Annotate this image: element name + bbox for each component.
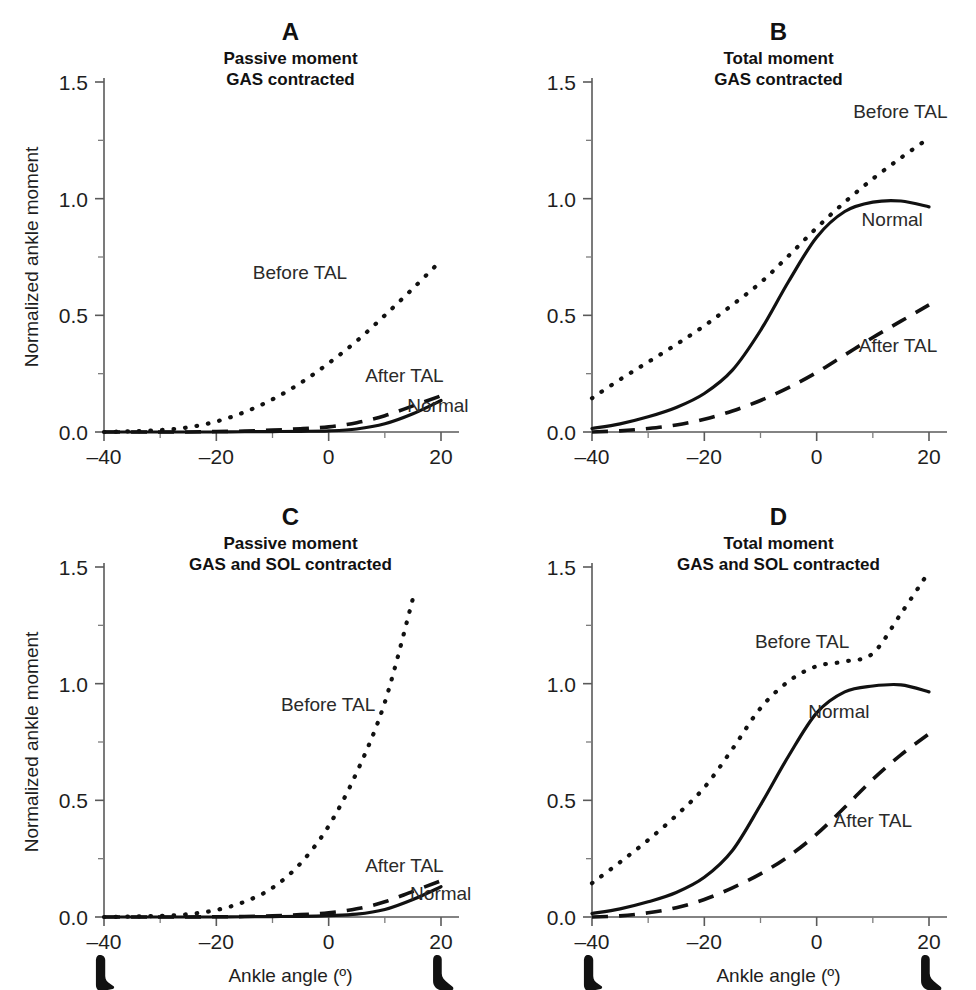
panel-letter-d: D: [770, 503, 787, 530]
panel-b-chart: BTotal momentGAS contracted0.00.51.01.5–…: [488, 0, 976, 505]
curve-label-after-tal: After TAL: [365, 365, 444, 386]
curve-label-before-tal: Before TAL: [281, 694, 375, 715]
curve-label-before-tal: Before TAL: [755, 631, 849, 652]
curve-label-before-tal: Before TAL: [853, 101, 947, 122]
x-tick-label: 20: [917, 930, 940, 953]
series-normal: [104, 887, 441, 917]
series-before-tal: [592, 138, 929, 398]
y-tick-label: 0.0: [59, 421, 88, 444]
x-axis-title: Ankle angle (º): [228, 965, 352, 986]
y-tick-label: 1.5: [59, 71, 88, 94]
series-before-tal: [592, 572, 929, 884]
panel-d-chart: DTotal momentGAS and SOL contracted0.00.…: [488, 485, 976, 990]
y-tick-label: 0.5: [547, 304, 576, 327]
panel-c-chart: CPassive momentGAS and SOL contracted0.0…: [0, 485, 488, 990]
panel-letter-b: B: [770, 18, 787, 45]
panel-letter-c: C: [282, 503, 299, 530]
y-tick-label: 1.0: [59, 673, 88, 696]
panel-title-line1: Passive moment: [223, 49, 358, 68]
panel-title-line1: Total moment: [723, 534, 834, 553]
y-tick-label: 0.5: [547, 789, 576, 812]
panel-title-line2: GAS contracted: [226, 70, 354, 89]
x-tick-label: –40: [86, 930, 121, 953]
x-tick-label: –20: [687, 445, 722, 468]
y-tick-label: 1.5: [547, 556, 576, 579]
panel-title-line1: Total moment: [723, 49, 834, 68]
panel-title-line2: GAS and SOL contracted: [677, 555, 880, 574]
x-tick-label: 20: [429, 930, 452, 953]
foot-plantarflexed-icon: [96, 955, 114, 990]
y-axis-title: Normalized ankle moment: [21, 146, 42, 367]
curve-label-normal: Normal: [808, 701, 869, 722]
panel-title-line2: GAS and SOL contracted: [189, 555, 392, 574]
series-normal: [592, 684, 929, 913]
foot-dorsiflexed-icon: [433, 955, 453, 990]
y-tick-label: 0.0: [547, 421, 576, 444]
y-tick-label: 1.5: [59, 556, 88, 579]
x-tick-label: 0: [811, 930, 823, 953]
figure-canvas: APassive momentGAS contracted0.00.51.01.…: [0, 0, 976, 990]
x-tick-label: –40: [574, 930, 609, 953]
x-tick-label: 0: [323, 445, 335, 468]
panel-b: BTotal momentGAS contracted0.00.51.01.5–…: [488, 0, 976, 495]
series-normal: [592, 201, 929, 429]
series-normal: [104, 401, 441, 433]
series-after-tal: [592, 305, 929, 432]
panel-d: DTotal momentGAS and SOL contracted0.00.…: [488, 485, 976, 980]
panel-a: APassive momentGAS contracted0.00.51.01.…: [0, 0, 488, 495]
x-tick-label: 0: [323, 930, 335, 953]
x-tick-label: –20: [199, 445, 234, 468]
curve-label-before-tal: Before TAL: [253, 262, 347, 283]
curve-label-normal: Normal: [862, 209, 923, 230]
x-axis-title: Ankle angle (º): [716, 965, 840, 986]
curve-label-normal: Normal: [407, 395, 468, 416]
y-tick-label: 0.0: [547, 906, 576, 929]
x-tick-label: 20: [917, 445, 940, 468]
y-tick-label: 0.5: [59, 789, 88, 812]
x-tick-label: 0: [811, 445, 823, 468]
curve-label-after-tal: After TAL: [834, 810, 913, 831]
panel-title-line2: GAS contracted: [714, 70, 842, 89]
y-tick-label: 1.0: [59, 188, 88, 211]
y-tick-label: 0.5: [59, 304, 88, 327]
x-tick-label: –20: [199, 930, 234, 953]
panel-letter-a: A: [282, 18, 299, 45]
x-tick-label: –40: [574, 445, 609, 468]
foot-plantarflexed-icon: [584, 955, 602, 990]
y-tick-label: 1.0: [547, 188, 576, 211]
panel-a-chart: APassive momentGAS contracted0.00.51.01.…: [0, 0, 488, 505]
curve-label-normal: Normal: [410, 883, 471, 904]
x-tick-label: 20: [429, 445, 452, 468]
y-tick-label: 0.0: [59, 906, 88, 929]
series-after-tal: [104, 396, 441, 432]
panel-title-line1: Passive moment: [223, 534, 358, 553]
series-before-tal: [104, 261, 441, 433]
curve-label-after-tal: After TAL: [365, 855, 444, 876]
x-tick-label: –40: [86, 445, 121, 468]
y-axis-title: Normalized ankle moment: [21, 631, 42, 852]
panel-c: CPassive momentGAS and SOL contracted0.0…: [0, 485, 488, 980]
y-tick-label: 1.0: [547, 673, 576, 696]
x-tick-label: –20: [687, 930, 722, 953]
foot-dorsiflexed-icon: [921, 955, 941, 990]
y-tick-label: 1.5: [547, 71, 576, 94]
curve-label-after-tal: After TAL: [859, 335, 938, 356]
